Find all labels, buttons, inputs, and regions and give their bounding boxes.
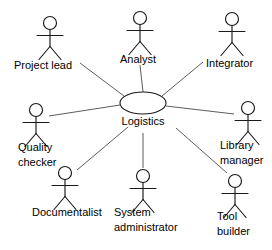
actor-system-administrator[interactable]: Systemadministrator <box>114 170 178 233</box>
actor-documentalist[interactable]: Documentalist <box>32 167 102 218</box>
actor-analyst[interactable]: Analyst <box>120 12 156 65</box>
actor-label-documentalist: Documentalist <box>32 206 102 218</box>
association-line-library-manager <box>166 106 234 114</box>
actor-label-system-administrator: System <box>114 206 151 218</box>
actor-label-quality-checker: Quality <box>18 141 53 153</box>
association-line-quality-checker <box>49 105 120 116</box>
actor-head-icon <box>134 12 147 25</box>
actor-integrator[interactable]: Integrator <box>206 13 253 69</box>
actor-left-leg-icon <box>221 43 232 56</box>
actor-label-quality-checker-line2: checker <box>18 156 57 168</box>
actor-left-leg-icon <box>39 47 50 60</box>
use-case-group[interactable]: Logistics <box>120 92 166 127</box>
actor-head-icon <box>229 175 242 188</box>
actor-right-leg-icon <box>232 43 243 56</box>
actor-head-icon <box>44 17 57 30</box>
actor-label-project-lead: Project lead <box>14 59 72 71</box>
association-line-integrator <box>162 62 203 96</box>
association-line-documentalist <box>77 127 128 170</box>
actor-project-lead[interactable]: Project lead <box>14 17 72 71</box>
actor-head-icon <box>59 167 72 180</box>
association-line-analyst <box>140 65 143 92</box>
actor-label-analyst: Analyst <box>120 53 156 65</box>
diagram-canvas: Logistics Project leadAnalystIntegratorQ… <box>0 0 272 250</box>
actor-library-manager[interactable]: Librarymanager <box>220 102 264 166</box>
actor-label-tool-builder: Tool <box>217 210 237 222</box>
use-case-ellipse-logistics[interactable] <box>120 92 166 114</box>
actor-label-system-administrator-line2: administrator <box>114 221 178 233</box>
actor-tool-builder[interactable]: Toolbuilder <box>217 175 250 237</box>
actor-quality-checker[interactable]: Qualitychecker <box>18 104 57 168</box>
use-case-label: Logistics <box>122 115 165 127</box>
actor-head-icon <box>30 104 43 117</box>
actor-label-tool-builder-line2: builder <box>217 225 250 237</box>
actor-right-leg-icon <box>50 47 61 60</box>
actor-label-library-manager: Library <box>220 139 254 151</box>
association-line-project-lead <box>80 63 124 96</box>
actor-label-integrator: Integrator <box>206 57 253 69</box>
actor-label-library-manager-line2: manager <box>220 154 264 166</box>
use-case-diagram: Logistics Project leadAnalystIntegratorQ… <box>0 0 272 250</box>
actor-head-icon <box>137 170 150 183</box>
actor-head-icon <box>242 102 255 115</box>
actor-head-icon <box>226 13 239 26</box>
